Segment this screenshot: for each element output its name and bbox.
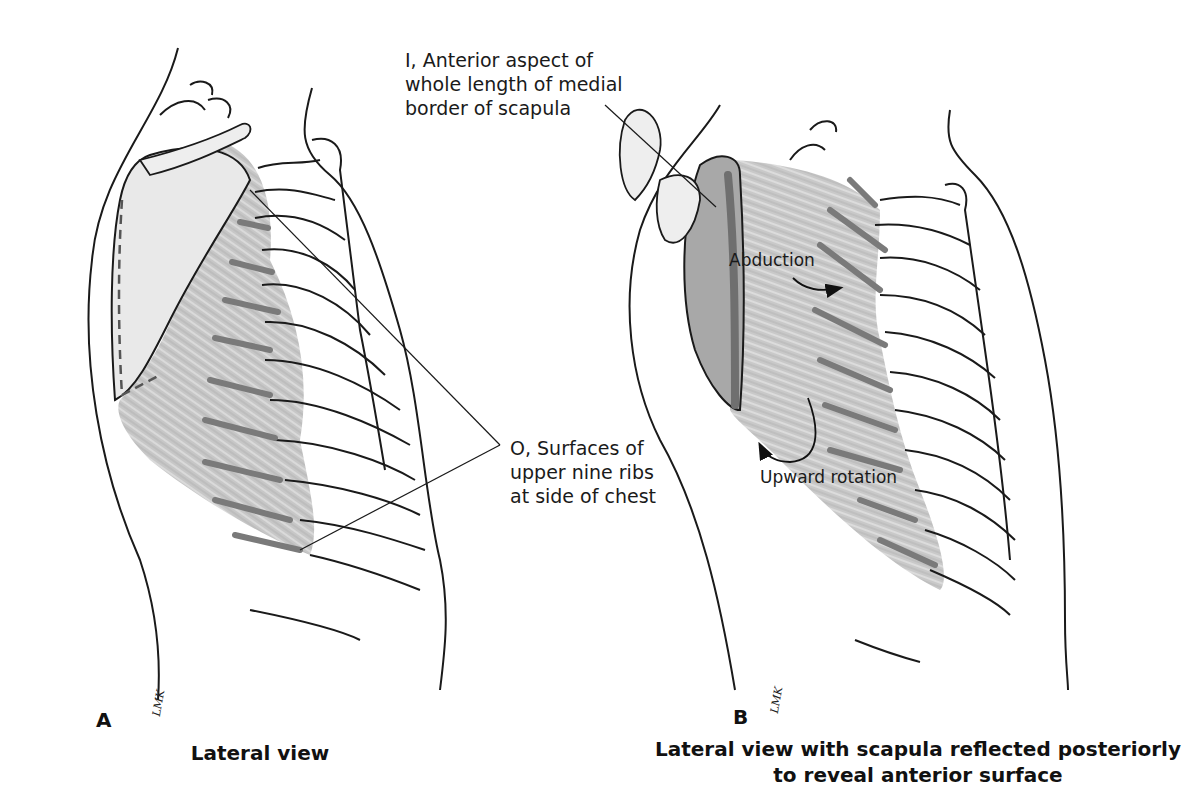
ribs-a <box>250 160 425 640</box>
body-outline-front <box>305 88 446 690</box>
acromion <box>620 110 661 200</box>
vertebrae <box>160 82 230 118</box>
panel-a-illustration <box>89 48 500 700</box>
caption-a: Lateral view <box>130 740 390 766</box>
sternum <box>312 139 385 470</box>
origin-label: O, Surfaces of upper nine ribs at side o… <box>510 436 656 508</box>
panel-b-illustration <box>605 105 1068 690</box>
insertion-label: I, Anterior aspect of whole length of me… <box>405 48 623 120</box>
sternum-b <box>945 184 1010 560</box>
anatomy-figure: I, Anterior aspect of whole length of me… <box>0 0 1199 798</box>
panel-letter-a: A <box>96 708 111 732</box>
panel-letter-b: B <box>733 705 748 729</box>
vertebrae-b <box>790 121 836 160</box>
upward-rotation-label: Upward rotation <box>760 467 897 487</box>
caption-b: Lateral view with scapula reflected post… <box>628 736 1199 788</box>
abduction-label: Abduction <box>729 250 815 270</box>
